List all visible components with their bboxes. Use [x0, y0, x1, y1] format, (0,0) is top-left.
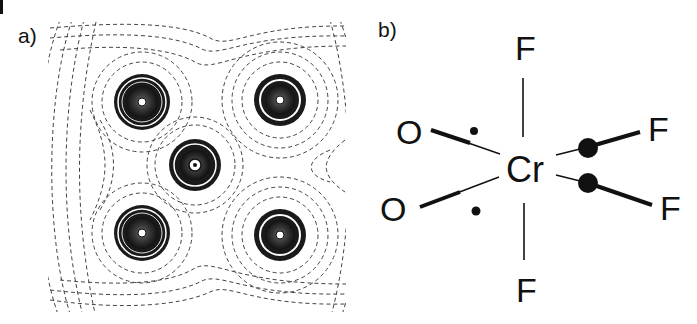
atom-f-top: F — [515, 29, 536, 67]
dot-lower-left — [472, 207, 481, 216]
atom-f-bottom: F — [516, 271, 537, 309]
dot-upper-left — [470, 127, 478, 135]
atom-cr: Cr — [506, 149, 544, 190]
dot-upper-right — [578, 138, 598, 158]
atom-o-upper: O — [396, 113, 422, 151]
atom-f-right-lower: F — [660, 189, 681, 227]
molecule-structure: Cr F F F F O O — [0, 0, 697, 324]
atom-f-right-upper: F — [648, 110, 669, 148]
dot-lower-right — [578, 173, 598, 193]
atom-o-lower: O — [380, 190, 406, 228]
